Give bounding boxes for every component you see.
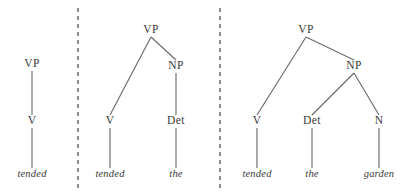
tree-edge-t3-np-to-t3-n	[354, 73, 379, 115]
leaf-t3-garden: garden	[364, 168, 395, 179]
leaf-t1-tended: tended	[17, 168, 47, 179]
syntax-tree-figure: VPVtendedVPVNPDettendedtheVPVNPDetNtende…	[0, 0, 413, 196]
node-t1-vp: VP	[24, 57, 40, 69]
node-t1-v: V	[28, 114, 37, 126]
node-t2-v: V	[106, 114, 115, 126]
node-t2-vp: VP	[143, 23, 159, 35]
node-t2-det: Det	[167, 114, 185, 126]
tree-labels-layer: VPVtendedVPVNPDettendedtheVPVNPDetNtende…	[17, 23, 394, 179]
divider-layer	[78, 8, 220, 190]
tree-edge-t3-np-to-t3-det	[312, 73, 354, 115]
node-t3-n: N	[375, 114, 384, 126]
tree-edge-t3-vp-to-t3-np	[306, 37, 354, 60]
tree-canvas: VPVtendedVPVNPDettendedtheVPVNPDetNtende…	[0, 0, 413, 196]
node-t3-vp: VP	[298, 23, 314, 35]
tree-edge-t2-vp-to-t2-v	[110, 37, 151, 115]
tree-edge-t2-vp-to-t2-np	[151, 37, 176, 60]
node-t3-det: Det	[303, 114, 321, 126]
leaf-t3-the: the	[305, 168, 319, 179]
tree-edges-layer	[32, 37, 379, 168]
leaf-t2-tended: tended	[95, 168, 125, 179]
node-t3-np: NP	[346, 59, 362, 71]
node-t3-v: V	[253, 114, 262, 126]
leaf-t2-the: the	[169, 168, 183, 179]
tree-edge-t3-vp-to-t3-v	[257, 37, 306, 115]
leaf-t3-tended: tended	[242, 168, 272, 179]
node-t2-np: NP	[168, 59, 184, 71]
